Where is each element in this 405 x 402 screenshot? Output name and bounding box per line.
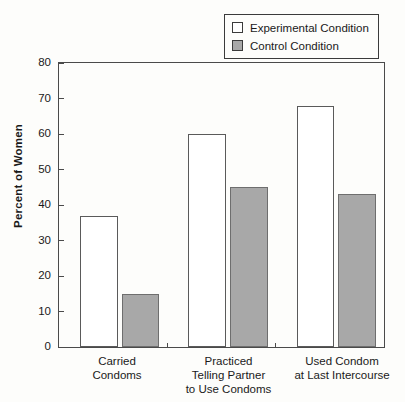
chart-legend: Experimental Condition Control Condition bbox=[224, 14, 379, 59]
y-tickmark-20 bbox=[59, 276, 64, 277]
bar-chart-figure: Experimental Condition Control Condition… bbox=[0, 0, 405, 402]
x-category-line: Condoms bbox=[62, 368, 172, 382]
y-ticklabel-70: 70 bbox=[38, 92, 51, 105]
x-category-label-carried-condoms: Carried Condoms bbox=[62, 354, 172, 382]
y-tickmark-50 bbox=[59, 169, 64, 170]
legend-swatch-control bbox=[232, 40, 243, 51]
legend-label-control: Control Condition bbox=[250, 40, 339, 52]
bar-experimental-practiced-telling-partner bbox=[188, 134, 226, 347]
legend-item-control: Control Condition bbox=[232, 38, 369, 53]
x-category-line: Telling Partner bbox=[171, 368, 286, 382]
x-category-line: at Last Intercourse bbox=[282, 368, 402, 382]
y-ticklabel-20: 20 bbox=[38, 269, 51, 282]
y-tickmark-30 bbox=[59, 240, 64, 241]
x-category-line: Practiced bbox=[171, 354, 286, 368]
x-category-line: Used Condom bbox=[282, 354, 402, 368]
bar-experimental-used-condom-last-intercourse bbox=[297, 106, 335, 347]
y-axis-title: Percent of Women bbox=[8, 0, 28, 352]
x-tickmark-2 bbox=[275, 343, 276, 348]
bar-control-used-condom-last-intercourse bbox=[338, 194, 376, 347]
x-category-label-used-condom-last-intercourse: Used Condom at Last Intercourse bbox=[282, 354, 402, 382]
x-category-line: Carried bbox=[62, 354, 172, 368]
legend-swatch-experimental bbox=[232, 22, 243, 33]
bar-experimental-carried-condoms bbox=[80, 216, 118, 347]
y-ticklabel-50: 50 bbox=[38, 163, 51, 176]
bar-control-carried-condoms bbox=[122, 294, 160, 347]
y-tickmark-10 bbox=[59, 311, 64, 312]
y-ticklabel-30: 30 bbox=[38, 234, 51, 247]
y-ticklabel-80: 80 bbox=[38, 56, 51, 69]
legend-item-experimental: Experimental Condition bbox=[232, 20, 369, 35]
x-category-line: to Use Condoms bbox=[171, 382, 286, 396]
x-category-label-practiced-telling-partner: Practiced Telling Partner to Use Condoms bbox=[171, 354, 286, 396]
y-tickmark-40 bbox=[59, 205, 64, 206]
y-axis-title-text: Percent of Women bbox=[12, 124, 24, 228]
y-tickmark-60 bbox=[59, 134, 64, 135]
x-tickmark-1 bbox=[167, 343, 168, 348]
plot-area: 80 70 60 50 40 30 20 10 bbox=[58, 62, 385, 348]
y-ticklabel-40: 40 bbox=[38, 198, 51, 211]
y-tickmark-70 bbox=[59, 98, 64, 99]
y-tickmark-80 bbox=[59, 63, 64, 64]
y-ticklabel-10: 10 bbox=[38, 305, 51, 318]
legend-label-experimental: Experimental Condition bbox=[250, 22, 369, 34]
y-tickmark-0 bbox=[59, 347, 64, 348]
y-ticklabel-60: 60 bbox=[38, 127, 51, 140]
bar-control-practiced-telling-partner bbox=[230, 187, 268, 347]
y-ticklabel-0: 0 bbox=[45, 340, 51, 353]
